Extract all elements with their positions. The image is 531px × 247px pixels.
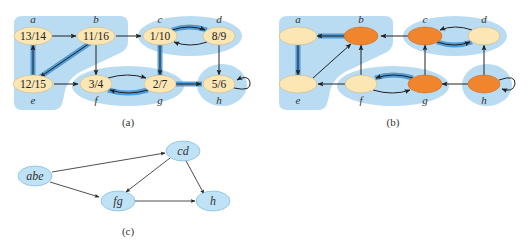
node-abe: abe bbox=[18, 166, 52, 186]
edge-cd-h bbox=[185, 159, 204, 194]
panel-c: abe cd fg h (c) bbox=[18, 141, 230, 238]
svg-text:b: b bbox=[358, 13, 364, 25]
svg-text:abe: abe bbox=[26, 169, 44, 183]
svg-text:a: a bbox=[30, 13, 36, 25]
svg-text:11/16: 11/16 bbox=[83, 30, 109, 42]
svg-text:c: c bbox=[158, 13, 163, 25]
caption-a: (a) bbox=[122, 116, 135, 129]
svg-text:h: h bbox=[210, 194, 216, 208]
svg-text:fg: fg bbox=[113, 194, 122, 208]
svg-text:e: e bbox=[31, 94, 36, 106]
svg-text:8/9: 8/9 bbox=[212, 30, 227, 42]
edge-cd-fg bbox=[126, 158, 170, 192]
caption-b: (b) bbox=[387, 116, 400, 129]
svg-text:1/10: 1/10 bbox=[150, 30, 171, 42]
svg-text:d: d bbox=[216, 13, 222, 25]
svg-text:5/6: 5/6 bbox=[212, 78, 227, 90]
svg-text:h: h bbox=[481, 94, 487, 106]
node-cd: cd bbox=[166, 141, 200, 161]
svg-text:3/4: 3/4 bbox=[89, 78, 104, 90]
node-h-c: h bbox=[196, 191, 230, 211]
node-fg: fg bbox=[101, 191, 135, 211]
panel-a: 13/14 a 11/16 b 1/10 c 8/9 d 12/15 e 3/4… bbox=[13, 13, 250, 129]
svg-text:a: a bbox=[295, 13, 301, 25]
svg-text:g: g bbox=[422, 94, 428, 106]
svg-text:13/14: 13/14 bbox=[20, 30, 46, 42]
svg-text:d: d bbox=[481, 13, 487, 25]
caption-c: (c) bbox=[122, 225, 135, 238]
svg-text:c: c bbox=[423, 13, 428, 25]
svg-text:12/15: 12/15 bbox=[20, 78, 46, 90]
svg-text:h: h bbox=[216, 94, 222, 106]
svg-text:cd: cd bbox=[177, 144, 189, 158]
svg-text:e: e bbox=[296, 94, 301, 106]
edge-abe-cd bbox=[52, 153, 165, 172]
panel-b: a b c d e f g h (b) bbox=[279, 13, 515, 129]
figure-canvas: 13/14 a 11/16 b 1/10 c 8/9 d 12/15 e 3/4… bbox=[0, 0, 531, 247]
svg-text:2/7: 2/7 bbox=[153, 78, 168, 90]
svg-text:b: b bbox=[93, 13, 99, 25]
edge-abe-fg bbox=[50, 182, 99, 197]
svg-text:g: g bbox=[157, 94, 163, 106]
